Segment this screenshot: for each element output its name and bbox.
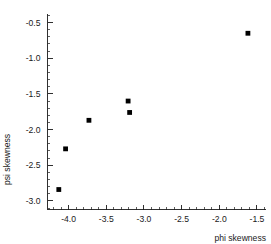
y-tick-label: -1.5 (26, 89, 41, 99)
data-point (87, 118, 92, 123)
y-axis-title: psi skewness (2, 134, 12, 185)
y-tick-label: -0.5 (26, 18, 41, 28)
y-tick-label: -1.0 (26, 53, 41, 63)
x-tick-label: -4.0 (61, 214, 76, 224)
plot-canvas: -4.0-3.5-3.0-2.5-2.0-1.5 -0.5-1.0-1.5-2.… (0, 0, 271, 244)
y-tick-label: -3.0 (26, 196, 41, 206)
scatter-plot-figure: -4.0-3.5-3.0-2.5-2.0-1.5 -0.5-1.0-1.5-2.… (0, 0, 271, 244)
y-tick-label: -2.5 (26, 160, 41, 170)
data-point (56, 187, 61, 192)
x-tick-label: -1.5 (250, 214, 265, 224)
y-tick-label: -2.0 (26, 125, 41, 135)
x-axis-tick-labels: -4.0-3.5-3.0-2.5-2.0-1.5 (61, 214, 264, 224)
x-axis-title: phi skewness (214, 233, 266, 243)
y-axis-tick-labels: -0.5-1.0-1.5-2.0-2.5-3.0 (26, 18, 41, 206)
x-tick-label: -3.5 (99, 214, 114, 224)
data-point (63, 146, 68, 151)
x-axis-ticks (54, 205, 265, 210)
data-point (127, 110, 132, 115)
y-axis-ticks (48, 15, 53, 208)
x-tick-label: -3.0 (137, 214, 152, 224)
data-point (246, 31, 251, 36)
data-point (126, 99, 131, 104)
axis-lines (48, 14, 267, 210)
x-tick-label: -2.0 (212, 214, 227, 224)
data-points-group (56, 31, 250, 192)
x-tick-label: -2.5 (174, 214, 189, 224)
